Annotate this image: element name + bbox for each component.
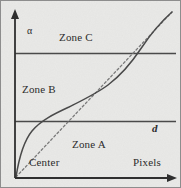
x-axis-label-pixels: Pixels <box>133 157 161 168</box>
y-axis-label-alpha: α <box>27 26 32 36</box>
zone-diagram-figure: α Zone C Zone B Zone A d Center Pixels <box>0 0 181 188</box>
origin-label-center: Center <box>29 157 60 168</box>
lower-divider-label-d: d <box>152 123 158 134</box>
zone-c-label: Zone C <box>59 32 93 43</box>
zone-a-label: Zone A <box>72 139 106 150</box>
zone-b-label: Zone B <box>22 84 56 95</box>
